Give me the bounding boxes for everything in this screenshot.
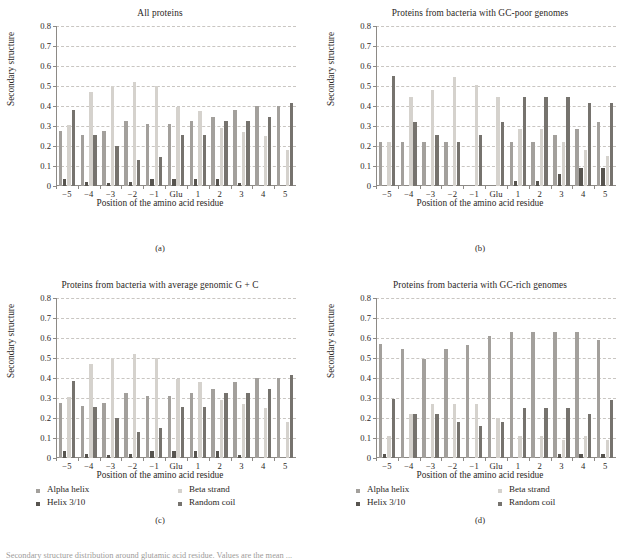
x-axis-tick-mark xyxy=(78,186,79,189)
bar xyxy=(597,122,600,186)
bar xyxy=(89,364,92,458)
panel-a: All proteins Secondary structure 00.10.2… xyxy=(0,0,320,270)
y-axis-tick-label: 0.3 xyxy=(40,121,51,131)
y-axis-tick-label: 0.5 xyxy=(40,81,51,91)
y-axis-tick-label: 0.7 xyxy=(360,313,371,323)
y-axis-tick-mark xyxy=(373,26,376,27)
bar xyxy=(488,336,491,458)
bar xyxy=(59,403,62,458)
x-axis-tick-mark xyxy=(231,458,232,461)
bar xyxy=(168,396,171,458)
x-axis-tick-mark xyxy=(252,458,253,461)
bar xyxy=(601,168,604,186)
bar xyxy=(72,110,75,186)
y-axis-tick-mark xyxy=(373,438,376,439)
bar xyxy=(422,359,425,458)
bar xyxy=(102,403,105,458)
legend-swatch-icon xyxy=(498,489,502,493)
y-axis-tick-mark xyxy=(53,398,56,399)
bar-group xyxy=(510,298,526,458)
bar xyxy=(220,128,223,186)
x-axis-tick-mark xyxy=(485,458,486,461)
x-axis-tick-mark xyxy=(463,458,464,461)
legend-swatch-icon xyxy=(36,489,40,493)
bar xyxy=(150,179,153,186)
x-axis-tick-mark xyxy=(529,186,530,189)
y-axis-tick-mark xyxy=(53,298,56,299)
y-axis-tick-mark xyxy=(53,338,56,339)
bar xyxy=(63,451,66,458)
bar xyxy=(479,426,482,458)
bar xyxy=(286,422,289,458)
y-axis-tick-mark xyxy=(53,418,56,419)
x-axis-tick-mark xyxy=(274,458,275,461)
bar xyxy=(89,92,92,186)
bar-group xyxy=(553,298,569,458)
bar-group xyxy=(444,26,460,186)
bar xyxy=(531,142,534,186)
bar xyxy=(475,404,478,458)
bar xyxy=(224,393,227,458)
bar xyxy=(409,97,412,186)
panel-d-title: Proteins from bacteria with GC-rich geno… xyxy=(320,280,640,290)
x-axis-tick-mark xyxy=(209,186,210,189)
bar xyxy=(216,179,219,186)
bar xyxy=(194,179,197,186)
bar xyxy=(290,103,293,186)
bar xyxy=(115,418,118,458)
legend-label: Helix 3/10 xyxy=(47,497,85,507)
panel-b-ylabel: Secondary structure xyxy=(326,32,336,106)
bar xyxy=(111,358,114,458)
y-axis-tick-label: 0.2 xyxy=(40,141,51,151)
bar-group xyxy=(124,298,140,458)
bar xyxy=(124,393,127,458)
bar xyxy=(277,106,280,186)
y-axis-tick-mark xyxy=(373,378,376,379)
bar xyxy=(566,408,569,458)
bar xyxy=(168,124,171,186)
y-axis-tick-mark xyxy=(373,66,376,67)
legend-label: Alpha helix xyxy=(367,484,409,494)
x-axis-tick-mark xyxy=(376,458,377,461)
panel-c-title: Proteins from bacteria with average geno… xyxy=(0,280,320,290)
bar xyxy=(584,150,587,186)
bar xyxy=(129,182,132,186)
x-axis-tick-mark xyxy=(100,458,101,461)
bar xyxy=(238,455,241,458)
bar xyxy=(238,183,241,186)
x-axis-tick-mark xyxy=(274,186,275,189)
bar xyxy=(518,129,521,186)
x-axis-tick-mark xyxy=(551,186,552,189)
bar xyxy=(444,349,447,458)
bar xyxy=(544,97,547,186)
y-axis-tick-label: 0.6 xyxy=(360,333,371,343)
bar xyxy=(401,142,404,186)
y-axis-tick-label: 0.3 xyxy=(360,121,371,131)
panel-b-plot: 00.10.20.30.40.50.60.70.8−5−4−3−2−1Glu12… xyxy=(376,26,616,186)
bar xyxy=(510,142,513,186)
x-axis-tick-mark xyxy=(143,186,144,189)
bar xyxy=(606,440,609,458)
bar xyxy=(146,124,149,186)
bar xyxy=(137,432,140,458)
bar xyxy=(387,436,390,458)
y-axis-tick-label: 0.6 xyxy=(40,333,51,343)
panel-c-legend: Alpha helixHelix 3/10Beta strandRandom c… xyxy=(0,485,320,511)
bar xyxy=(203,135,206,186)
bar xyxy=(553,332,556,458)
bar xyxy=(172,179,175,186)
y-axis-tick-mark xyxy=(53,46,56,47)
legend-swatch-icon xyxy=(356,502,360,506)
panel-b-letter: (b) xyxy=(320,243,640,253)
x-axis-tick-mark xyxy=(594,458,595,461)
bar xyxy=(290,375,293,458)
bar xyxy=(610,400,613,458)
bar xyxy=(115,146,118,186)
panel-b-bar-groups xyxy=(376,26,616,186)
y-axis-tick-label: 0.4 xyxy=(360,373,371,383)
bar xyxy=(553,135,556,186)
bar xyxy=(514,181,517,186)
bar xyxy=(264,136,267,186)
x-axis-tick-mark xyxy=(551,458,552,461)
bar-group xyxy=(168,298,184,458)
